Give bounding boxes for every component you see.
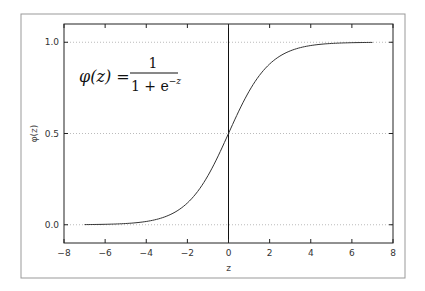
- y-tick-label: 1.0: [45, 37, 60, 47]
- y-axis-label: φ(z): [29, 125, 39, 143]
- x-tick-label: 8: [390, 248, 396, 258]
- x-axis-label: z: [226, 263, 231, 273]
- y-tick-label: 0.0: [45, 220, 60, 230]
- x-tick-label: 6: [349, 248, 355, 258]
- x-tick-label: −8: [57, 248, 71, 258]
- formula-denominator-base: 1 + e: [131, 78, 169, 94]
- formula-numerator: 1: [149, 55, 158, 71]
- x-tick-label: −6: [98, 248, 112, 258]
- figure-frame: [21, 14, 405, 278]
- x-tick-label: 4: [308, 248, 314, 258]
- x-tick-label: −4: [140, 248, 154, 258]
- x-tick-label: 2: [267, 248, 273, 258]
- sigmoid-chart: −8−6−4−202468 0.00.51.0 z φ(z) φ(z) = 1 …: [0, 0, 425, 291]
- formula-lhs: φ(z) =: [79, 67, 130, 86]
- x-tick-label: 0: [226, 248, 232, 258]
- y-tick-label: 0.5: [45, 129, 59, 139]
- formula-denominator-exp: −z: [169, 76, 182, 86]
- x-tick-label: −2: [181, 248, 194, 258]
